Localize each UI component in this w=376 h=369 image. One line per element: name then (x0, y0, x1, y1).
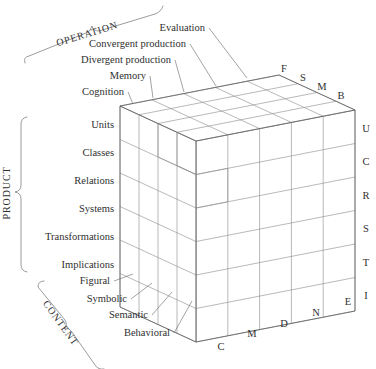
product-label-units: Units (91, 119, 114, 130)
operation-leader-evaluation (209, 28, 247, 78)
content-letter-S: S (300, 72, 306, 83)
operation-leader-convergent (190, 44, 216, 86)
operation-label-convergent-production: Convergent production (89, 38, 187, 49)
product-label-implications: Implications (62, 259, 115, 270)
product-letter-I: I (364, 290, 368, 301)
operation-letter-M: M (247, 328, 257, 339)
content-label-figural: Figural (80, 275, 110, 286)
operation-leader-cognition (128, 92, 133, 104)
product-letter-S: S (363, 223, 369, 234)
content-letter-F: F (281, 63, 287, 74)
product-axis-label: PRODUCT (1, 167, 12, 220)
operation-leader-memory (150, 76, 153, 98)
operation-label-evaluation: Evaluation (160, 22, 206, 33)
operation-label-divergent-production: Divergent production (81, 54, 172, 65)
product-labels: Units Classes Relations Systems Transfor… (45, 119, 114, 270)
operation-letter-E: E (345, 296, 351, 307)
operation-label-memory: Memory (110, 70, 147, 81)
product-letter-U: U (362, 123, 370, 134)
content-label-semantic: Semantic (109, 309, 148, 320)
content-letter-B: B (337, 90, 344, 101)
product-label-transformations: Transformations (45, 231, 114, 242)
product-letter-C: C (362, 156, 369, 167)
product-letters: U C R S T I (362, 123, 370, 301)
product-label-systems: Systems (79, 203, 114, 214)
operation-leader-divergent (175, 60, 184, 92)
cube-diagram: F S M B U C R S T I E N D M C Evaluation… (0, 0, 376, 369)
operation-letter-N: N (312, 307, 320, 318)
operation-label-cognition: Cognition (82, 86, 125, 97)
product-letter-R: R (362, 190, 369, 201)
cube-front-face (196, 110, 355, 342)
product-label-relations: Relations (74, 175, 114, 186)
content-axis-label: CONTENT (41, 298, 81, 347)
product-label-classes: Classes (83, 147, 115, 158)
product-axis-brace (15, 117, 27, 272)
operation-letter-C: C (217, 341, 224, 352)
operation-letter-D: D (280, 318, 288, 329)
soi-cube-figure: F S M B U C R S T I E N D M C Evaluation… (0, 0, 376, 369)
product-letter-T: T (363, 257, 370, 268)
content-letter-M: M (317, 81, 327, 92)
content-label-behavioral: Behavioral (124, 327, 170, 338)
content-label-symbolic: Symbolic (87, 293, 128, 304)
